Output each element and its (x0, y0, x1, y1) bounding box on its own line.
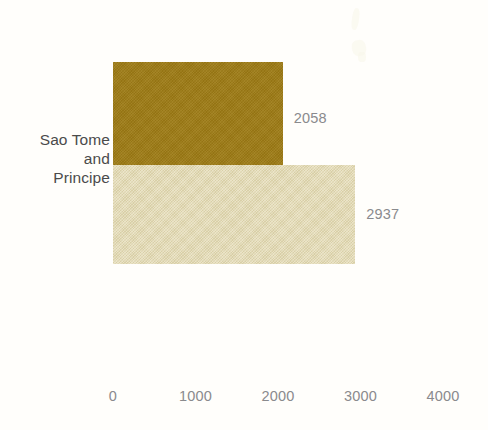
x-tick-label-3000: 3000 (344, 388, 377, 404)
bar-value-label-series-2: 2937 (366, 206, 399, 222)
x-axis: 0 1000 2000 3000 4000 (0, 388, 488, 410)
bar-chart: Sao Tome and Principe 2058 2937 0 1000 2… (0, 0, 488, 430)
bar-value-label-series-1: 2058 (294, 110, 327, 126)
x-tick-label-2000: 2000 (261, 388, 294, 404)
category-axis-label: Sao Tome and Principe (8, 130, 110, 187)
x-tick-label-4000: 4000 (426, 388, 459, 404)
scan-artifact-icon (350, 39, 367, 58)
bar-series-2[interactable] (113, 165, 355, 264)
scan-artifact-icon (351, 8, 361, 31)
x-tick-label-1000: 1000 (179, 388, 212, 404)
x-tick-label-0: 0 (109, 388, 117, 404)
scan-artifact-icon (358, 52, 366, 62)
bar-series-1[interactable] (113, 62, 283, 165)
